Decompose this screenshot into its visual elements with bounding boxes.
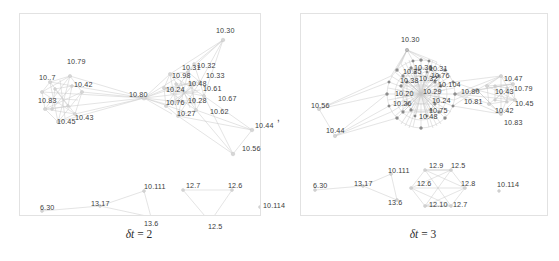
node-label: 10.80 (461, 88, 480, 95)
node-label: 13.6 (388, 199, 402, 206)
node-label: 10.43 (495, 88, 514, 95)
node-label: 10.80 (129, 91, 148, 98)
node-label: 10.111 (144, 183, 166, 190)
caption-right: δt = 3 (300, 228, 546, 240)
node-label: 10.47 (504, 75, 523, 82)
node-label: 10.26 (393, 100, 412, 107)
node-label: 10.20 (395, 90, 414, 97)
node-label: 6.30 (313, 182, 327, 189)
node-label: 10.79 (67, 58, 86, 65)
node-label: 10.67 (218, 95, 237, 102)
node-label: 10.79 (514, 85, 533, 92)
node-label: 12.9 (429, 162, 443, 169)
node-label: 10.33 (206, 72, 225, 79)
node-label: 10.114 (497, 181, 519, 188)
node-label: 10.30 (216, 27, 235, 34)
node-label: 10.45 (515, 100, 534, 107)
node-label: 10.45 (57, 118, 76, 125)
node-label: 10.42 (74, 81, 93, 88)
node-label: 12.6 (417, 180, 431, 187)
node-label: 13.6 (144, 220, 158, 227)
node-label: 10.42 (495, 107, 514, 114)
node-label: 12.10 (429, 201, 448, 208)
node-label: 10.83 (504, 119, 523, 126)
caption-left: δt = 2 (0, 228, 278, 240)
node-label: 10.76 (166, 99, 185, 106)
node-label: 10.81 (464, 98, 483, 105)
network-graph-figure: 10.7910..710.4210.8310.4510.4310.8010.30… (0, 0, 559, 261)
node-label: 10.32 (419, 75, 438, 82)
node-label: 10.111 (388, 167, 410, 174)
caption-left-value: = 2 (137, 228, 152, 240)
caption-right-symbol: δt (410, 228, 419, 240)
node-label: 10.28 (188, 97, 207, 104)
node-label: 10.24 (166, 86, 185, 93)
node-label: 10.44 (255, 122, 274, 129)
node-label: 12.7 (453, 201, 467, 208)
panel-separator: , (277, 112, 280, 123)
node-label: 12.8 (461, 180, 475, 187)
node-label: 10.114 (263, 202, 285, 209)
node-label: 13.17 (354, 180, 373, 187)
node-label: 10.56 (311, 102, 330, 109)
node-label: 12.5 (451, 162, 465, 169)
node-label: 10.30 (401, 36, 420, 43)
node-label: 6.30 (40, 204, 54, 211)
node-label: 12.6 (228, 182, 242, 189)
node-label: 10.83 (38, 97, 57, 104)
node-label: 13.17 (91, 200, 110, 207)
graph-panel-left: 10.7910..710.4210.8310.4510.4310.8010.30… (19, 13, 261, 216)
caption-left-symbol: δt (126, 228, 135, 240)
node-label: 12.7 (186, 182, 200, 189)
node-label: 10.56 (242, 145, 261, 152)
node-label: 10.38 (400, 77, 419, 84)
node-label: 10..7 (39, 74, 56, 81)
node-label: 10.62 (210, 108, 229, 115)
node-label: 10.44 (326, 127, 345, 134)
graph-panel-right: 10.3010.3610.3510.3110.7610.3210.3810.10… (300, 13, 548, 216)
node-label: 10.48 (419, 113, 438, 120)
caption-right-value: = 3 (421, 228, 436, 240)
node-label: 10.27 (177, 110, 196, 117)
node-label: 10.61 (203, 85, 222, 92)
node-label: 10.43 (75, 114, 94, 121)
node-label: 10.32 (197, 62, 216, 69)
node-label: 10.29 (423, 88, 442, 95)
node-label: 10.24 (432, 97, 451, 104)
